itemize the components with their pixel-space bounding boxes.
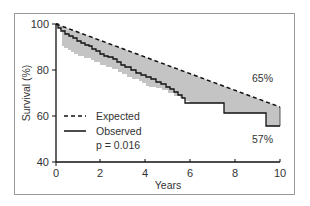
y-tick-label-40: 40 (37, 156, 49, 168)
y-tick-label-60: 60 (37, 110, 49, 122)
legend-expected-label: Expected (96, 110, 140, 122)
p-value-annotation: p = 0.016 (96, 139, 140, 151)
difference-shading (56, 24, 280, 126)
x-tick-label-8: 8 (232, 167, 238, 179)
y-tick-label-80: 80 (37, 64, 49, 76)
x-axis-title: Years (155, 179, 181, 191)
x-tick-label-0: 0 (53, 167, 59, 179)
survival-chart: 100 80 60 40 0 2 4 6 8 10 Years Survival… (0, 0, 310, 206)
x-tick-label-2: 2 (97, 167, 103, 179)
x-tick-label-10: 10 (274, 167, 286, 179)
y-tick-label-100: 100 (31, 18, 49, 30)
expected-end-annotation: 65% (252, 72, 273, 84)
x-tick-label-4: 4 (142, 167, 148, 179)
observed-end-annotation: 57% (252, 133, 273, 145)
legend-observed-label: Observed (96, 125, 142, 137)
y-axis-title: Survival (%) (20, 65, 32, 122)
expected-line (56, 24, 280, 107)
x-tick-label-6: 6 (187, 167, 193, 179)
